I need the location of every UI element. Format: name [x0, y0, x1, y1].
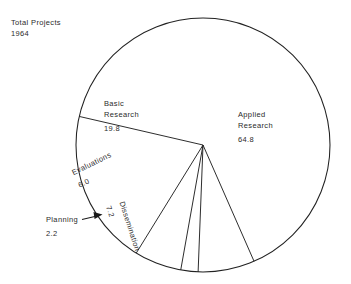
chart-subtitle: 1964 [11, 29, 61, 40]
pie-chart: Total Projects 1964 Basic Research 19.8 … [0, 0, 351, 284]
slice-label-basic-research-line1: Basic [104, 99, 124, 108]
slice-label-basic-research: Basic Research 19.8 [104, 98, 139, 134]
slice-label-applied-research-line2: Research [238, 121, 273, 130]
slice-value-planning: 2.2 [46, 228, 78, 239]
slice-label-applied-research: Applied Research 64.8 [238, 109, 273, 145]
pie-chart-svg [0, 0, 351, 284]
page-title: Total Projects [11, 18, 61, 29]
slice-label-planning: Planning 2.2 [46, 214, 78, 239]
slice-label-planning-text: Planning [46, 215, 78, 224]
slice-label-basic-research-line2: Research [104, 110, 139, 119]
slice-label-applied-research-line1: Applied [238, 110, 265, 119]
slice-value-basic-research: 19.8 [104, 123, 139, 134]
chart-title-block: Total Projects 1964 [11, 18, 61, 39]
slice-value-applied-research: 64.8 [238, 134, 273, 145]
